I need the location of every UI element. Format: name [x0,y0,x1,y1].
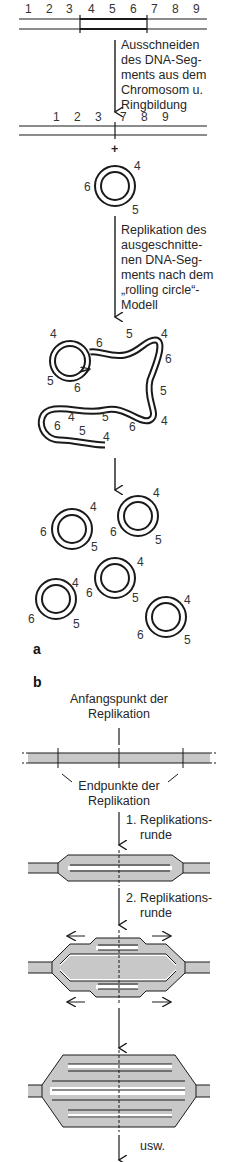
svg-text:4: 4 [50,327,57,341]
svg-text:6: 6 [129,420,136,434]
svg-text:6: 6 [74,381,81,395]
plus-sign: + [111,142,118,156]
svg-text:Replikation: Replikation [88,707,150,721]
chromosome-after-excision: 1 2 3 7 8 9 [19,110,207,139]
locus-number: 5 [109,2,116,16]
svg-text:des DNA-Seg-: des DNA-Seg- [121,53,202,67]
locus-number: 6 [130,2,137,16]
linear-dna-unreplicated [22,748,216,768]
svg-text:8: 8 [141,110,148,124]
svg-text:nen DNA-Seg-: nen DNA-Seg- [121,253,202,267]
svg-text:runde: runde [140,828,172,842]
svg-text:4: 4 [90,500,97,514]
svg-text:Ringbildung: Ringbildung [121,98,187,112]
locus-number: 3 [66,2,73,16]
product-ring [146,597,186,637]
svg-text:5: 5 [155,533,162,547]
product-ring [95,558,135,598]
svg-text:5: 5 [126,327,133,341]
svg-text:6: 6 [40,525,47,539]
svg-text:Chromosom u.: Chromosom u. [121,83,203,97]
chromosome-full: 1 2 3 4 5 6 7 8 9 [19,2,207,33]
svg-text:6: 6 [28,612,35,626]
svg-text:Replikation: Replikation [88,794,150,808]
excised-ring: 4 6 5 [84,159,141,217]
svg-text:4: 4 [161,327,168,341]
step1-caption: Ausschneiden des DNA-Seg- ments aus dem … [121,38,206,112]
svg-text:3: 3 [95,110,102,124]
svg-text:4: 4 [137,555,144,569]
locus-number: 1 [25,2,32,16]
endpoints-label: Endpunkte der Replikation [78,779,159,808]
svg-text:Ausschneiden: Ausschneiden [121,38,200,52]
svg-text:ausgeschnitte-: ausgeschnitte- [121,238,202,252]
dna-replication-diagram: 1 2 3 4 5 6 7 8 9 Ausschneiden des DNA-S… [0,0,237,1162]
svg-text:4: 4 [161,414,168,428]
round2-label: 2. Replikations- runde [126,891,212,920]
locus-number: 2 [46,2,53,16]
svg-text:Modell: Modell [121,298,158,312]
step2-caption: Replikation des ausgeschnitte- nen DNA-S… [121,223,213,312]
svg-text:5: 5 [91,540,98,554]
svg-text:5: 5 [79,424,86,438]
panel-a-label: a [33,641,41,657]
svg-text:Endpunkte der: Endpunkte der [78,779,159,793]
svg-text:5: 5 [47,374,54,388]
rolling-circle-labels: 4 6 5 4 6 5 4 5 6 6 4 5 6 5 4 [47,327,172,444]
svg-text:6: 6 [137,628,144,642]
svg-text:5: 5 [132,591,139,605]
svg-text:„rolling circle“-: „rolling circle“- [121,283,199,297]
svg-text:9: 9 [162,110,169,124]
svg-text:4: 4 [184,593,191,607]
svg-text:6: 6 [165,352,172,366]
product-rings [36,496,186,637]
origin-label: Anfangspunkt der Replikation [70,692,168,721]
svg-text:Replikation des: Replikation des [121,223,206,237]
chromosome-numbers: 1 2 3 4 5 6 7 8 9 [25,2,200,16]
svg-text:runde: runde [140,906,172,920]
svg-text:2: 2 [74,110,81,124]
continuation-label: usw. [140,1139,165,1153]
svg-text:ments nach dem: ments nach dem [121,268,213,282]
replication-bubble-round3 [28,1050,210,1132]
round1-label: 1. Replikations- runde [126,813,212,842]
svg-text:2. Replikations-: 2. Replikations- [126,891,212,905]
svg-text:6: 6 [96,336,103,350]
panel-b-label: b [33,674,42,690]
locus-number: 8 [172,2,179,16]
product-ring-labels: 4 6 5 4 6 5 4 6 5 4 6 5 4 6 5 [28,486,191,647]
product-ring [52,509,92,549]
svg-text:ments aus dem: ments aus dem [121,68,206,82]
svg-text:4: 4 [103,430,110,444]
product-ring [118,496,158,536]
product-ring [36,579,76,619]
svg-text:1: 1 [53,110,60,124]
svg-text:5: 5 [184,633,191,647]
svg-text:7: 7 [120,110,127,124]
svg-text:5: 5 [160,384,167,398]
svg-text:6: 6 [84,180,91,194]
svg-text:6: 6 [54,419,61,433]
svg-text:1. Replikations-: 1. Replikations- [126,813,212,827]
locus-number: 4 [88,2,95,16]
svg-text:5: 5 [102,410,109,424]
replication-bubble-round1 [28,850,210,886]
svg-text:4: 4 [134,159,141,173]
svg-text:6: 6 [86,586,93,600]
locus-number: 7 [151,2,158,16]
svg-text:4: 4 [68,410,75,424]
replication-bubble-round2 [28,930,210,1003]
svg-text:4: 4 [153,486,160,500]
svg-text:5: 5 [73,617,80,631]
svg-text:6: 6 [110,525,117,539]
svg-text:4: 4 [72,576,79,590]
locus-number: 9 [193,2,200,16]
svg-text:Anfangspunkt der: Anfangspunkt der [70,692,168,706]
svg-text:5: 5 [132,203,139,217]
